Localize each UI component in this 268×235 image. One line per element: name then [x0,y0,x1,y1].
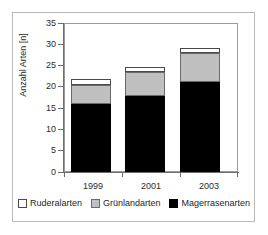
y-tick-label-5: 5 [16,146,56,155]
y-tick-label-15: 15 [16,104,56,113]
bar-segment-ruderalarten-2003[interactable] [180,48,220,53]
chart-legend: Ruderalarten Grünlandarten Magerrasenart… [18,196,250,210]
bar-group-2001[interactable] [125,67,165,172]
y-tick-mark-35 [58,23,63,24]
y-tick-label-20: 20 [16,82,56,91]
bar-segment-gruenlandarten-2003[interactable] [180,53,220,82]
x-tick-mark-right [237,172,238,177]
x-tick-mark-left [64,172,65,177]
legend-item-magerrasenarten[interactable]: Magerrasenarten [169,198,250,208]
bar-segment-gruenlandarten-2001[interactable] [125,72,165,96]
y-tick-mark-20 [58,86,63,87]
plot-area [64,23,238,172]
bar-group-1999[interactable] [71,80,111,172]
y-tick-mark-30 [58,44,63,45]
y-tick-mark-25 [58,65,63,66]
legend-label-magerrasenarten: Magerrasenarten [181,198,250,208]
y-tick-label-25: 25 [16,61,56,70]
white-square-icon [18,199,27,208]
bar-segment-ruderalarten-1999[interactable] [71,79,111,85]
y-tick-label-35: 35 [16,19,56,28]
legend-label-ruderalarten: Ruderalarten [30,198,82,208]
y-tick-mark-5 [58,150,63,151]
x-tick-label-1999: 1999 [70,181,116,191]
chart-figure: Anzahl Arten [n] 35 30 25 20 15 10 5 0 [0,0,268,235]
x-axis-line [63,172,239,173]
y-tick-label-0: 0 [16,168,56,177]
bar-segment-magerrasenarten-2003[interactable] [180,82,220,172]
y-tick-mark-15 [58,108,63,109]
black-square-icon [169,199,178,208]
legend-label-gruenlandarten: Grünlandarten [103,198,161,208]
y-tick-label-30: 30 [16,40,56,49]
legend-item-ruderalarten[interactable]: Ruderalarten [18,198,82,208]
bar-group-2003[interactable] [180,49,220,172]
gray-square-icon [91,199,100,208]
legend-item-gruenlandarten[interactable]: Grünlandarten [91,198,161,208]
x-tick-mark-2 [180,172,181,177]
x-tick-mark-1 [122,172,123,177]
bar-segment-ruderalarten-2001[interactable] [125,67,165,72]
bar-segment-magerrasenarten-1999[interactable] [71,104,111,172]
x-tick-label-2003: 2003 [186,181,232,191]
y-tick-label-10: 10 [16,125,56,134]
bar-segment-magerrasenarten-2001[interactable] [125,96,165,172]
x-tick-label-2001: 2001 [128,181,174,191]
bar-segment-gruenlandarten-1999[interactable] [71,85,111,104]
y-tick-mark-10 [58,129,63,130]
